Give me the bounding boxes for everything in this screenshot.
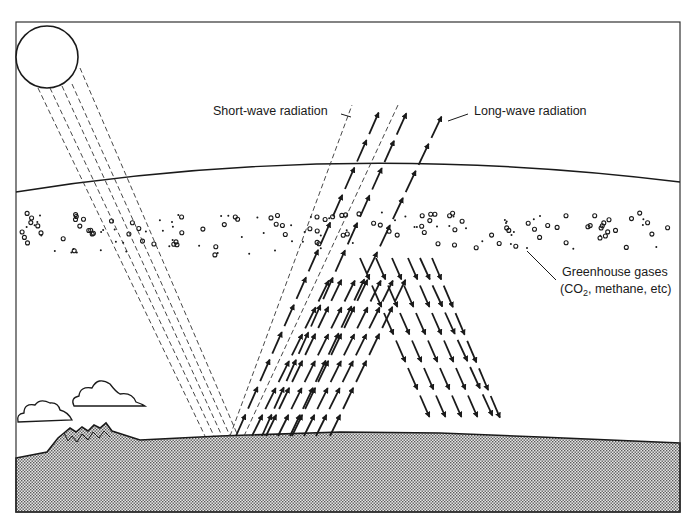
gas-particle xyxy=(453,228,457,232)
gas-particle xyxy=(606,230,610,234)
gas-particle xyxy=(39,231,43,235)
long-wave-arrow-up xyxy=(297,277,307,299)
gas-particle xyxy=(241,236,243,238)
reflected-short-wave-ray xyxy=(230,105,352,436)
gas-particle xyxy=(428,219,432,223)
gas-particle xyxy=(280,224,284,228)
long-wave-arrow-up xyxy=(380,225,390,246)
long-wave-arrow-up xyxy=(321,223,330,244)
long-wave-arrow-up xyxy=(260,360,270,381)
long-wave-arrow-down xyxy=(420,396,429,417)
short-wave-rays-incoming xyxy=(38,68,238,436)
gas-particle xyxy=(555,225,559,229)
gas-particle xyxy=(168,245,170,247)
gas-particle xyxy=(248,253,250,255)
greenhouse-leader xyxy=(527,251,556,280)
long-wave-arrow-up xyxy=(274,387,284,408)
long-wave-arrow-down xyxy=(456,368,465,389)
long-wave-arrow-up xyxy=(278,415,288,436)
gas-particle xyxy=(420,214,424,218)
gas-particle xyxy=(572,248,574,250)
long-wave-arrow-up xyxy=(305,361,315,382)
gas-particle xyxy=(302,241,304,243)
long-wave-arrow-up xyxy=(331,361,341,382)
sun-icon xyxy=(16,26,78,88)
gas-particle xyxy=(263,232,265,234)
gas-particle xyxy=(372,221,376,225)
short-wave-ray xyxy=(38,88,205,436)
cloud-left xyxy=(18,401,72,422)
long-wave-arrow-up xyxy=(406,171,416,192)
gas-particle xyxy=(39,214,41,216)
long-wave-arrow-up xyxy=(317,388,327,409)
short-wave-rays-reflected xyxy=(230,105,398,436)
gas-particle xyxy=(513,231,515,233)
gas-particle xyxy=(429,212,433,216)
gas-particle xyxy=(36,221,38,223)
long-wave-arrow-up xyxy=(345,168,354,189)
gas-particle xyxy=(213,253,217,257)
gas-particle xyxy=(607,218,611,222)
long-wave-arrow-up xyxy=(331,308,341,329)
short-wave-ray xyxy=(50,88,214,436)
long-wave-arrow-up xyxy=(419,144,429,165)
gas-particle xyxy=(666,226,670,230)
gas-particle xyxy=(70,252,72,254)
long-wave-arrow-down xyxy=(376,258,385,279)
co-text: (CO xyxy=(560,282,583,296)
gas-particle xyxy=(283,233,287,237)
gas-particle xyxy=(404,216,406,218)
long-wave-arrow-down xyxy=(479,368,488,390)
gas-particle xyxy=(436,242,440,246)
long-wave-arrow-down xyxy=(444,341,453,362)
long-wave-arrow-down xyxy=(467,341,476,363)
gas-particle xyxy=(514,244,518,248)
greenhouse-gas-particles xyxy=(20,211,670,257)
gas-particle xyxy=(474,246,478,250)
long-wave-arrow-up xyxy=(382,307,392,328)
gas-particle xyxy=(137,227,141,231)
long-wave-arrow-up xyxy=(272,332,282,354)
gas-particle xyxy=(315,229,319,233)
long-wave-arrow-down xyxy=(420,286,429,307)
gas-particle xyxy=(564,214,568,218)
gas-particle xyxy=(214,245,218,249)
gas-particle xyxy=(510,243,512,245)
gas-particle xyxy=(546,224,550,228)
long-wave-arrow-down xyxy=(444,286,453,308)
gas-particle xyxy=(490,233,494,237)
long-wave-arrow-down xyxy=(360,258,369,279)
gas-particle xyxy=(599,235,601,237)
long-wave-arrow-up xyxy=(305,388,315,409)
long-wave-arrow-down xyxy=(428,341,437,362)
greenhouse-gases-examples: (CO2, methane, etc) xyxy=(560,282,671,299)
gas-particle xyxy=(171,221,173,223)
gas-particle xyxy=(198,245,200,247)
cloud-right xyxy=(73,381,145,406)
long-wave-arrow-up xyxy=(393,198,403,219)
long-wave-arrow-down xyxy=(408,368,417,389)
gas-particle xyxy=(145,231,147,233)
long-wave-arrow-up xyxy=(356,334,366,355)
gas-particle xyxy=(453,243,457,247)
long-wave-arrow-down xyxy=(433,285,443,306)
gas-particle xyxy=(638,211,642,215)
gas-particle xyxy=(315,215,319,219)
long-wave-arrow-down xyxy=(412,341,421,362)
gas-particle xyxy=(453,215,455,217)
gas-particle xyxy=(481,240,483,242)
long-wave-arrow-down xyxy=(396,341,405,362)
short-wave-label: Short-wave radiation xyxy=(213,104,328,119)
long-wave-arrow-up xyxy=(291,388,301,409)
long-wave-arrow-up xyxy=(397,113,407,134)
long-wave-arrow-up xyxy=(369,334,379,355)
long-wave-arrow-up xyxy=(357,140,366,161)
long-wave-arrow-down xyxy=(388,286,397,307)
atmosphere-boundary xyxy=(16,163,680,192)
gas-particle xyxy=(162,230,164,232)
gas-particle xyxy=(274,222,278,226)
gas-particle xyxy=(26,241,30,245)
gas-particle xyxy=(114,229,116,231)
gas-particle xyxy=(20,230,24,234)
gas-particle xyxy=(222,223,226,227)
